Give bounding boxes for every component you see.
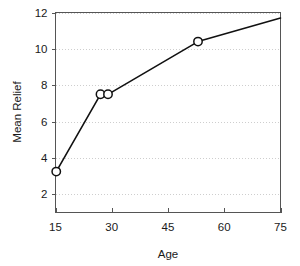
x-axis-title: Age <box>158 248 178 260</box>
y-tick-label-4: 4 <box>41 152 48 164</box>
line-chart: 1530456075 24681012 Age Mean Relief <box>0 0 300 266</box>
data-point-0 <box>52 167 60 175</box>
x-tick-label-15: 15 <box>49 221 62 233</box>
y-tick-label-6: 6 <box>41 116 47 128</box>
data-point-3 <box>194 37 202 45</box>
y-axis-title: Mean Relief <box>11 81 23 143</box>
y-tick-label-8: 8 <box>41 79 47 91</box>
y-tick-label-2: 2 <box>41 188 47 200</box>
x-tick-label-75: 75 <box>274 221 287 233</box>
x-tick-label-45: 45 <box>162 221 175 233</box>
chart-figure: 1530456075 24681012 Age Mean Relief <box>0 0 300 266</box>
chart-background <box>0 0 300 266</box>
x-tick-label-60: 60 <box>218 221 231 233</box>
y-tick-label-10: 10 <box>35 43 48 55</box>
data-point-2 <box>104 90 112 98</box>
x-tick-label-30: 30 <box>105 221 118 233</box>
y-tick-label-12: 12 <box>35 7 48 19</box>
